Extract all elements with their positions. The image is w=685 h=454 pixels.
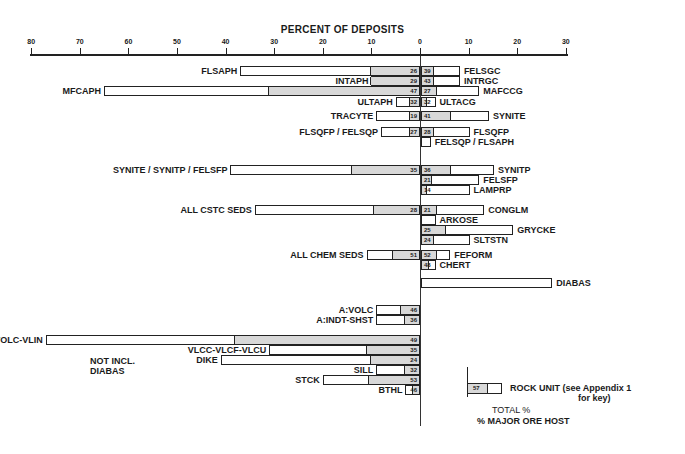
bar-value: 27	[410, 129, 417, 135]
note-not-incl: NOT INCL.	[90, 356, 135, 366]
bar-felsgc: 39	[421, 66, 460, 76]
bar-value: 24	[410, 357, 417, 363]
x-tick-label: 20	[513, 38, 521, 45]
x-tick	[80, 48, 81, 56]
bar-value: 19	[410, 113, 417, 119]
bar-label: SYNITP	[498, 165, 531, 175]
bar-label: A:VOLC	[339, 305, 374, 315]
bar-label: SYNITE / SYNITP / FELSFP	[113, 165, 227, 175]
legend-host: % MAJOR ORE HOST	[477, 416, 570, 426]
bar-label: ULTAPH	[358, 97, 393, 107]
x-tick	[274, 48, 275, 56]
bar-felsqp-flsaph	[421, 137, 431, 147]
x-tick	[128, 48, 129, 56]
bar-a-volc: 46	[376, 305, 420, 315]
x-tick	[371, 48, 372, 56]
bar-value: 47	[410, 88, 417, 94]
bar-label: FELSGC	[464, 66, 501, 76]
bar-stck: 53	[323, 375, 420, 385]
bar-value: 46	[410, 307, 417, 313]
bar-arkose	[421, 215, 436, 225]
x-tick-label: 80	[27, 38, 35, 45]
bar-value: 46	[410, 387, 417, 393]
bar-label: INTAPH	[336, 76, 369, 86]
bar-all-cstc-seds: 28	[255, 205, 420, 215]
legend-rock-unit: ROCK UNIT (see Appendix 1	[510, 383, 631, 393]
bar-value: 49	[410, 337, 417, 343]
bar-flsaph: 26	[240, 66, 420, 76]
bar-feform: 52	[421, 250, 450, 260]
bar-label: BTHL	[378, 385, 402, 395]
legend-total: TOTAL %	[492, 405, 530, 415]
bar-tracyte: 19	[376, 111, 420, 121]
x-tick-label: 10	[465, 38, 473, 45]
bar-label: ULTACG	[440, 97, 476, 107]
x-tick-label: 20	[319, 38, 327, 45]
bar-label: VOLC-VLIN	[0, 335, 43, 345]
bar-label: MAFCCG	[483, 86, 523, 96]
bar-label: SYNITE	[493, 111, 526, 121]
x-tick	[420, 48, 421, 56]
bar-dike: 24	[221, 355, 420, 365]
bar-value: 43	[424, 78, 431, 84]
bar-value: 32	[424, 99, 431, 105]
bar-label: STCK	[295, 375, 320, 385]
bar-bthl: 46	[405, 385, 420, 395]
bar-ultacg: 32	[421, 97, 436, 107]
bar-lamprp: 14	[421, 185, 470, 195]
bar-synite-synitp-felsfp: 35	[230, 165, 420, 175]
x-tick	[323, 48, 324, 56]
bar-label: FLSAPH	[201, 66, 237, 76]
x-tick	[517, 48, 518, 56]
bar-value: 21	[424, 207, 431, 213]
bar-label: FLSQFP / FELSQP	[299, 127, 378, 137]
bar-label: DIKE	[196, 355, 218, 365]
bar-label: FEFORM	[454, 250, 492, 260]
bar-value: 32	[410, 99, 417, 105]
bar-sill: 32	[376, 365, 420, 375]
note-diabas: DIABAS	[90, 366, 125, 376]
bar-value: 51	[410, 252, 417, 258]
x-tick-label: 50	[173, 38, 181, 45]
bar-value: 48	[424, 262, 431, 268]
bar-label: FLSQFP	[474, 127, 510, 137]
x-tick-label: 0	[418, 38, 422, 45]
x-axis	[30, 54, 568, 56]
x-tick-label: 30	[562, 38, 570, 45]
bar-value: 36	[410, 317, 417, 323]
bar-label: INTRGC	[464, 76, 499, 86]
bar-value: 36	[424, 167, 431, 173]
bar-value: 35	[410, 167, 417, 173]
bar-chert: 48	[421, 260, 436, 270]
legend-for-key: for key)	[578, 393, 611, 403]
bar-value: 39	[424, 68, 431, 74]
bar-value: 53	[410, 377, 417, 383]
x-tick-label: 60	[124, 38, 132, 45]
legend-bar: 57	[467, 383, 502, 394]
x-tick	[177, 48, 178, 56]
bar-label: GRYCKE	[517, 225, 555, 235]
bar-mafccg: 27	[421, 86, 479, 96]
bar-synite: 41	[421, 111, 489, 121]
bar-label: LAMPRP	[474, 185, 512, 195]
bar-ultaph: 32	[396, 97, 420, 107]
bar-flsqfp: 28	[421, 127, 470, 137]
bar-intaph: 29	[371, 76, 420, 86]
bar-label: DIABAS	[556, 278, 591, 288]
bar-label: CHERT	[440, 260, 471, 270]
x-tick	[566, 48, 567, 56]
bar-label: MFCAPH	[63, 86, 102, 96]
bar-value: 24	[424, 237, 431, 243]
bar-conglm: 21	[421, 205, 484, 215]
bar-label: ALL CHEM SEDS	[290, 250, 363, 260]
bar-value: 21	[424, 177, 431, 183]
bar-value: 25	[424, 227, 431, 233]
bar-intrgc: 43	[421, 76, 460, 86]
bar-value: 14	[424, 187, 431, 193]
bar-label: FELSQP / FLSAPH	[435, 137, 514, 147]
bar-vlcc-vlcf-vlcu: 35	[269, 345, 420, 355]
bar-flsqfp-felsqp: 27	[381, 127, 420, 137]
bar-value: 52	[424, 252, 431, 258]
bar-value: 29	[410, 78, 417, 84]
bar-value: 41	[424, 113, 431, 119]
